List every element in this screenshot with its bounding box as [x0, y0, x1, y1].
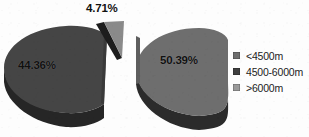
pie-slice-low-altitude[interactable]: [136, 28, 228, 130]
pie-slice-low-edge: [136, 36, 140, 84]
legend-swatch-icon-high-altitude: [233, 84, 240, 91]
chart-legend: <4500m 4500-6000m >6000m: [233, 50, 303, 93]
slice-label-high-altitude: 4.71%: [86, 2, 118, 14]
legend-item-low-altitude[interactable]: <4500m: [233, 50, 303, 61]
slice-label-low-altitude: 50.39%: [160, 54, 198, 66]
legend-swatch-icon-mid-altitude: [233, 68, 240, 75]
legend-label-mid-altitude: 4500-6000m: [246, 66, 303, 78]
legend-item-mid-altitude[interactable]: 4500-6000m: [233, 66, 303, 77]
slice-label-mid-altitude: 44.36%: [18, 59, 56, 71]
pie-slice-mid-altitude[interactable]: [4, 26, 107, 127]
pie-chart: 44.36% 50.39% 4.71% <4500m 4500-6000m >6…: [0, 0, 309, 137]
legend-label-low-altitude: <4500m: [246, 50, 283, 62]
legend-swatch-icon-low-altitude: [233, 52, 240, 59]
legend-label-high-altitude: >6000m: [246, 82, 283, 94]
legend-item-high-altitude[interactable]: >6000m: [233, 82, 303, 93]
